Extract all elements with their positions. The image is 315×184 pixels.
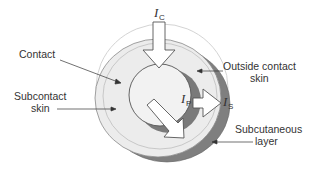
- skin-current-diagram: I C I P I S Contact Subcontact skin Outs…: [0, 0, 315, 184]
- subcontact-label-line2: skin: [31, 102, 50, 114]
- contact-current-label: I C: [153, 5, 165, 22]
- subcutaneous-label-line1: Subcutaneous: [235, 123, 302, 135]
- subcutaneous-label-line2: layer: [255, 135, 278, 147]
- contact-label: Contact: [19, 48, 55, 60]
- svg-text:P: P: [186, 99, 191, 108]
- subcontact-label-line1: Subcontact: [14, 90, 67, 102]
- svg-text:C: C: [159, 13, 165, 22]
- outside-skin-label-line1: Outside contact: [223, 60, 296, 72]
- svg-text:S: S: [228, 102, 233, 111]
- outside-skin-label-line2: skin: [250, 72, 269, 84]
